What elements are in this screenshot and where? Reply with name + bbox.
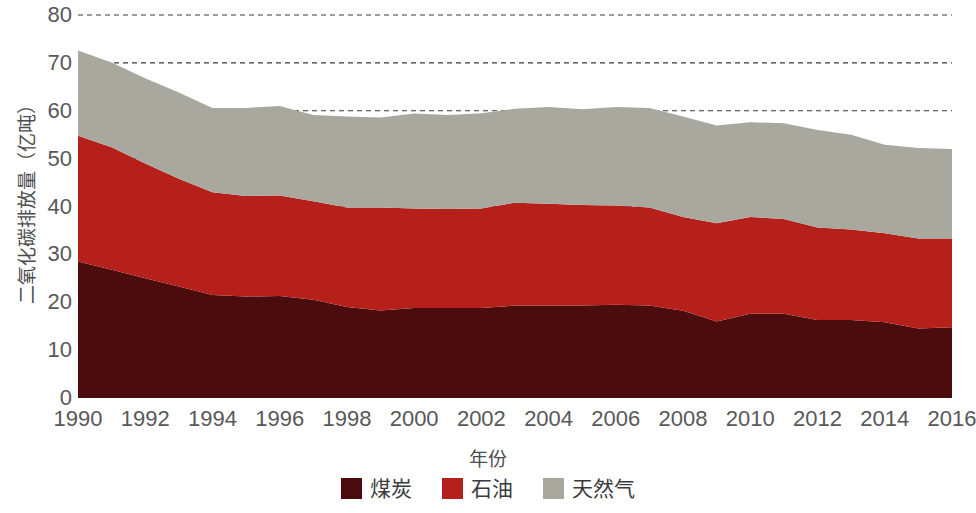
x-tick-2004: 2004 bbox=[524, 406, 573, 432]
chart-legend: 煤炭石油天然气 bbox=[0, 478, 975, 499]
plot-svg bbox=[78, 0, 952, 399]
legend-item-石油[interactable]: 石油 bbox=[442, 478, 513, 499]
x-tick-1996: 1996 bbox=[255, 406, 304, 432]
y-tick-10: 10 bbox=[28, 339, 72, 361]
x-tick-2008: 2008 bbox=[659, 406, 708, 432]
y-tick-50: 50 bbox=[28, 148, 72, 170]
y-tick-70: 70 bbox=[28, 52, 72, 74]
x-tick-1994: 1994 bbox=[188, 406, 237, 432]
x-tick-2012: 2012 bbox=[793, 406, 842, 432]
y-tick-30: 30 bbox=[28, 243, 72, 265]
legend-swatch-icon bbox=[442, 478, 463, 499]
x-tick-2010: 2010 bbox=[726, 406, 775, 432]
x-tick-2016: 2016 bbox=[928, 406, 976, 432]
y-axis-tick-labels: 80706050403020100 bbox=[0, 0, 72, 420]
legend-label: 天然气 bbox=[572, 478, 635, 499]
y-tick-60: 60 bbox=[28, 100, 72, 122]
legend-label: 煤炭 bbox=[370, 478, 412, 499]
x-axis-title: 年份 bbox=[0, 444, 975, 471]
legend-item-天然气[interactable]: 天然气 bbox=[543, 478, 635, 499]
y-tick-80: 80 bbox=[28, 4, 72, 26]
x-tick-1998: 1998 bbox=[322, 406, 371, 432]
x-tick-2014: 2014 bbox=[860, 406, 909, 432]
x-tick-2006: 2006 bbox=[591, 406, 640, 432]
legend-item-煤炭[interactable]: 煤炭 bbox=[341, 478, 412, 499]
legend-swatch-icon bbox=[341, 478, 362, 499]
x-tick-1992: 1992 bbox=[121, 406, 170, 432]
x-tick-2002: 2002 bbox=[457, 406, 506, 432]
y-tick-20: 20 bbox=[28, 291, 72, 313]
legend-label: 石油 bbox=[471, 478, 513, 499]
y-tick-40: 40 bbox=[28, 196, 72, 218]
legend-swatch-icon bbox=[543, 478, 564, 499]
plot-area bbox=[78, 0, 952, 399]
x-tick-1990: 1990 bbox=[54, 406, 103, 432]
x-tick-2000: 2000 bbox=[390, 406, 439, 432]
